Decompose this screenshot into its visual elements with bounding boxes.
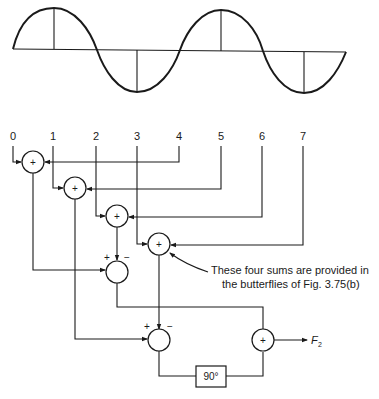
adder-0-4: + <box>22 151 44 173</box>
input-label-0: 0 <box>10 130 16 142</box>
input-label-2: 2 <box>93 130 99 142</box>
plus-sign: + <box>30 157 36 168</box>
input-label-7: 7 <box>300 130 306 142</box>
output-label: F 2 <box>311 334 322 348</box>
plus-sign: + <box>156 239 162 250</box>
final-adder: + <box>252 329 274 351</box>
sine-curve <box>13 8 346 93</box>
plus-sign: + <box>72 183 78 194</box>
plus-sign: + <box>260 335 266 346</box>
adder-2-6: + <box>106 205 128 227</box>
svg-text:2: 2 <box>318 341 322 348</box>
phase-shift-label: 90° <box>203 371 218 382</box>
input-label-4: 4 <box>176 130 182 142</box>
sine-waveform <box>13 8 346 93</box>
annotation-line-1: These four sums are provided in <box>211 264 369 276</box>
plus-sign: + <box>104 252 110 263</box>
input-label-1: 1 <box>50 130 56 142</box>
phase-shift-block: 90° <box>196 366 226 387</box>
minus-sign: − <box>124 252 130 263</box>
minus-sign: − <box>167 321 173 332</box>
annotation-line-2: the butterflies of Fig. 3.75(b) <box>222 278 360 290</box>
adder-1-5: + <box>64 177 86 199</box>
input-label-5: 5 <box>218 130 224 142</box>
annotation: These four sums are provided in the butt… <box>211 264 369 290</box>
butterfly-diagram: 0 1 2 3 4 5 6 7 <box>0 0 379 399</box>
input-label-3: 3 <box>134 130 140 142</box>
input-label-6: 6 <box>259 130 265 142</box>
plus-sign: + <box>144 321 150 332</box>
input-labels: 0 1 2 3 4 5 6 7 <box>10 130 306 142</box>
plus-sign: + <box>114 211 120 222</box>
adder-3-7: + <box>148 233 170 255</box>
